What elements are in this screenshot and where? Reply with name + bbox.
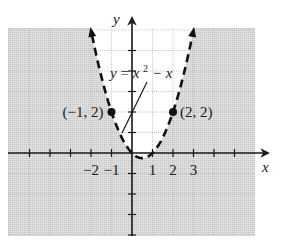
point-label: (2, 2) [180, 104, 213, 121]
x-tick-label: 2 [169, 162, 177, 178]
x-tick-label: −1 [104, 162, 120, 178]
y-axis-label: y [111, 11, 120, 27]
graph: (−1, 2)(2, 2) y x y = x 2 − x −2−1123 [0, 0, 282, 246]
x-axis-label: x [261, 159, 269, 175]
point-marker [108, 108, 116, 116]
point-marker [169, 108, 177, 116]
x-tick-label: 3 [190, 162, 198, 178]
x-tick-label: 1 [149, 162, 157, 178]
x-tick-label: −2 [83, 162, 99, 178]
point-label: (−1, 2) [63, 104, 104, 121]
